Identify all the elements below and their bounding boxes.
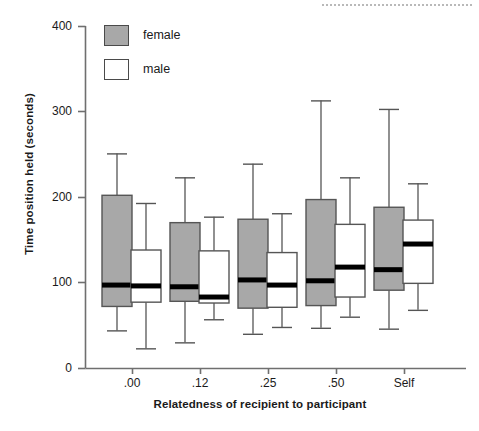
box-rect bbox=[403, 220, 433, 283]
box-rect bbox=[306, 200, 336, 306]
box-rect bbox=[374, 207, 404, 290]
legend-item-female: female bbox=[104, 22, 181, 48]
box-rect bbox=[238, 219, 268, 308]
legend: female male bbox=[104, 22, 181, 90]
legend-label-male: male bbox=[143, 62, 170, 76]
x-tick-label: .50 bbox=[306, 376, 366, 390]
box-male-.00 bbox=[131, 203, 161, 349]
box-rect bbox=[267, 253, 297, 308]
box-rect bbox=[170, 223, 200, 302]
box-female-Self bbox=[374, 109, 404, 329]
x-tick-label: Self bbox=[374, 376, 434, 390]
box-rect bbox=[131, 250, 161, 302]
legend-swatch-female-icon bbox=[104, 25, 129, 46]
x-axis-title: Relatedness of recipient to participant bbox=[60, 398, 460, 410]
legend-swatch-male-icon bbox=[104, 59, 129, 80]
box-male-Self bbox=[403, 183, 433, 310]
legend-label-female: female bbox=[143, 28, 181, 42]
box-female-.50 bbox=[306, 100, 336, 328]
box-female-.12 bbox=[170, 177, 200, 343]
box-rect bbox=[335, 224, 365, 297]
y-tick-label: 400 bbox=[28, 19, 72, 33]
box-male-.25 bbox=[267, 213, 297, 327]
box-male-.50 bbox=[335, 177, 365, 317]
y-axis-title: Time position held (seconds) bbox=[23, 59, 35, 289]
y-tick-label: 0 bbox=[28, 361, 72, 375]
box-female-.25 bbox=[238, 164, 268, 335]
legend-item-male: male bbox=[104, 56, 181, 82]
box-female-.00 bbox=[102, 153, 132, 330]
box-plot-series-layer bbox=[102, 100, 433, 348]
boxplot-figure: 400 300 200 100 0 .00 .12 .25 .50 Self T… bbox=[0, 0, 479, 431]
x-tick-label: .12 bbox=[170, 376, 230, 390]
x-tick-label: .00 bbox=[102, 376, 162, 390]
x-tick-label: .25 bbox=[238, 376, 298, 390]
box-male-.12 bbox=[199, 217, 229, 320]
box-rect bbox=[102, 195, 132, 306]
